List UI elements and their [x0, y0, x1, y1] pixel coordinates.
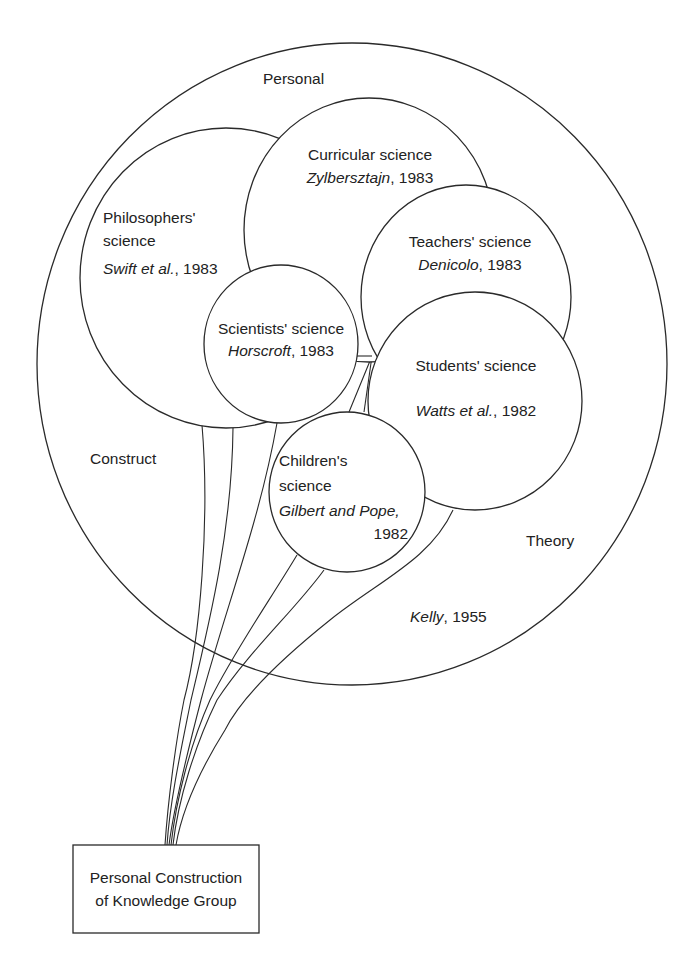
- string-children-left: [171, 555, 297, 845]
- year-horscroft: , 1983: [291, 342, 334, 359]
- anchor-box-pckg: [73, 845, 259, 933]
- scientists-citation: Horscroft, 1983: [228, 342, 334, 359]
- label-construct: Construct: [90, 450, 157, 467]
- students-citation: Watts et al., 1982: [416, 402, 536, 419]
- author-kelly: Kelly: [410, 608, 445, 625]
- philosophers-citation: Swift et al., 1983: [103, 260, 218, 277]
- year-kelly: , 1955: [444, 608, 487, 625]
- author-gilbert-pope: Gilbert and Pope,: [279, 502, 400, 519]
- curricular-citation: Zylbersztajn, 1983: [306, 169, 434, 186]
- author-watts: Watts et al.: [416, 402, 493, 419]
- label-personal: Personal: [263, 70, 324, 87]
- author-swift: Swift et al.: [103, 260, 175, 277]
- label-kelly-citation: Kelly, 1955: [410, 608, 487, 625]
- author-denicolo: Denicolo: [418, 256, 479, 273]
- author-zylbersztajn: Zylbersztajn: [306, 169, 391, 186]
- children-title-line1: Children's: [279, 452, 348, 469]
- philosophers-title-line2: science: [103, 232, 156, 249]
- string-philosophers: [165, 425, 205, 845]
- author-horscroft: Horscroft: [228, 342, 292, 359]
- anchor-box-line2: of Knowledge Group: [95, 892, 236, 909]
- string-scientists-right: [169, 423, 277, 845]
- balloon-diagram: Personal Construct Theory Kelly, 1955 Ph…: [0, 0, 691, 963]
- year-denicolo: , 1983: [479, 256, 522, 273]
- year-zylbersztajn: , 1983: [390, 169, 433, 186]
- label-theory: Theory: [526, 532, 574, 549]
- students-title: Students' science: [415, 357, 536, 374]
- year-swift: , 1983: [175, 260, 218, 277]
- philosophers-title-line1: Philosophers': [103, 209, 196, 226]
- string-scientists-left: [167, 428, 233, 845]
- curricular-title: Curricular science: [308, 146, 432, 163]
- anchor-box-line1: Personal Construction: [90, 869, 243, 886]
- children-title-line2: science: [279, 477, 332, 494]
- teachers-citation: Denicolo, 1983: [418, 256, 521, 273]
- string-children-right: [173, 570, 324, 845]
- children-year: 1982: [374, 525, 408, 542]
- year-watts: , 1982: [493, 402, 536, 419]
- scientists-title: Scientists' science: [218, 320, 344, 337]
- teachers-title: Teachers' science: [409, 233, 532, 250]
